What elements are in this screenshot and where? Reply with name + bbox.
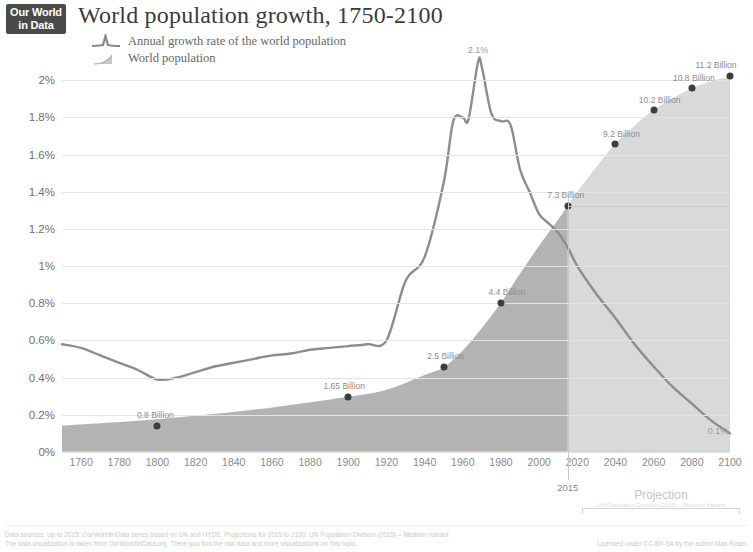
x-axis-baseline [62, 451, 730, 452]
projection-start-year-label: 2015 [557, 482, 578, 493]
projection-sublabel: UN Population Division (2015) – Medium V… [597, 502, 726, 508]
y-axis-tick-label: 1.2% [29, 223, 55, 235]
population-data-point [727, 73, 734, 80]
x-axis-tick-label: 1860 [260, 456, 283, 468]
y-axis-tick-label: 0.2% [29, 409, 55, 421]
peak-growth-rate-label: 2.1% [468, 45, 489, 55]
gridline [62, 378, 730, 379]
gridline [62, 229, 730, 230]
x-axis-tick-label: 2040 [604, 456, 627, 468]
x-axis-tick-label: 2100 [718, 456, 741, 468]
population-point-label: 9.2 Billion [603, 129, 640, 139]
x-axis-tick-label: 1780 [108, 456, 131, 468]
gridline [62, 192, 730, 193]
projection-bracket [582, 508, 740, 514]
population-point-label: 0.8 Billion [137, 410, 174, 420]
y-axis-tick-label: 0.4% [29, 372, 55, 384]
gridline [62, 303, 730, 304]
population-data-point [612, 140, 619, 147]
logo-line-1: Our World [6, 6, 66, 19]
page-title: World population growth, 1750-2100 [78, 2, 443, 29]
population-data-point [688, 85, 695, 92]
gridline [62, 80, 730, 81]
growth-rate-line-icon [92, 34, 120, 49]
gridline [62, 340, 730, 341]
population-2015-guideline [568, 206, 730, 207]
x-axis-tick-label: 2060 [642, 456, 665, 468]
legend-label-growth-rate: Annual growth rate of the world populati… [128, 34, 346, 49]
x-axis-tick-label: 1920 [375, 456, 398, 468]
y-axis-tick-label: 1.6% [29, 149, 55, 161]
plot-area: 0%0.2%0.4%0.6%0.8%1%1.2%1.4%1.6%1.8%2% 1… [62, 58, 730, 452]
projection-label: Projection [634, 488, 687, 502]
population-point-label: 10.2 Billion [639, 95, 681, 105]
gridline [62, 452, 730, 453]
gridline [62, 266, 730, 267]
x-axis-tick-label: 1980 [489, 456, 512, 468]
population-data-point [345, 393, 352, 400]
y-axis-tick-label: 0.6% [29, 334, 55, 346]
footer-license: Licensed under CC-BY-SA by the author Ma… [597, 539, 748, 548]
projection-divider [568, 198, 569, 480]
x-axis-tick-label: 1820 [184, 456, 207, 468]
gridline [62, 117, 730, 118]
x-axis-tick-label: 1800 [146, 456, 169, 468]
x-axis-tick-label: 2080 [680, 456, 703, 468]
population-data-point [440, 364, 447, 371]
population-point-label: 2.5 Billion [427, 351, 464, 361]
y-axis-tick-label: 1.4% [29, 186, 55, 198]
y-axis-tick-label: 0% [38, 446, 55, 458]
y-axis-tick-label: 1.8% [29, 111, 55, 123]
population-data-point [497, 300, 504, 307]
footer-source-line-1: Data sources: Up to 2015: OurWorldInData… [5, 530, 748, 539]
chart-container: Our World in Data World population growt… [0, 0, 753, 552]
legend-item-growth-rate: Annual growth rate of the world populati… [92, 33, 346, 50]
y-axis-tick-label: 1% [38, 260, 55, 272]
population-point-label: 11.2 Billion [696, 60, 737, 70]
x-axis-tick-label: 1960 [451, 456, 474, 468]
y-axis-tick-label: 0.8% [29, 297, 55, 309]
end-growth-rate-label: 0.1% [708, 426, 729, 436]
x-axis-tick-label: 2000 [527, 456, 550, 468]
x-axis-tick-label: 1900 [337, 456, 360, 468]
population-data-point [650, 106, 657, 113]
y-axis-tick-label: 2% [38, 74, 55, 86]
x-axis-tick-label: 1880 [298, 456, 321, 468]
owid-logo: Our World in Data [6, 4, 66, 34]
logo-line-2: in Data [6, 19, 66, 32]
population-point-label: 7.3 Billion [547, 190, 584, 200]
gridline [62, 155, 730, 156]
x-axis-tick-label: 1760 [69, 456, 92, 468]
population-point-label: 4.4 Billion [489, 287, 526, 297]
footer: Data sources: Up to 2015: OurWorldInData… [5, 530, 748, 548]
x-axis-tick-label: 2020 [566, 456, 589, 468]
population-data-point [154, 422, 161, 429]
footer-divider [5, 525, 748, 526]
x-axis-tick-label: 1840 [222, 456, 245, 468]
population-point-label: 10.8 Billion [673, 73, 715, 83]
x-axis-tick-label: 1940 [413, 456, 436, 468]
population-point-label: 1.65 Billion [323, 381, 365, 391]
